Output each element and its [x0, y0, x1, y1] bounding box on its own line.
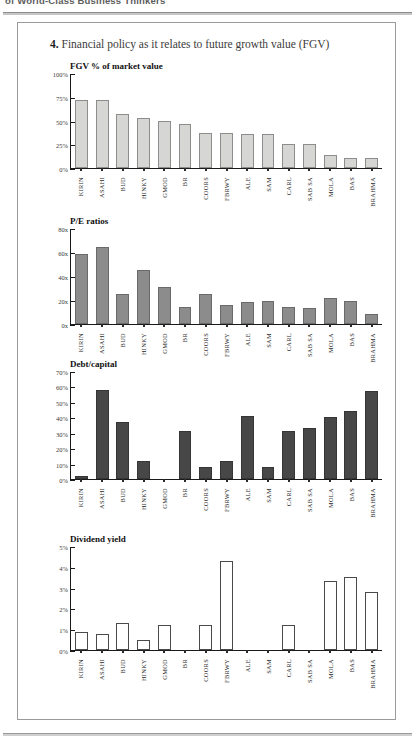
bar[interactable]: [220, 461, 233, 480]
x-axis-label: SAB SA: [306, 177, 313, 201]
bar[interactable]: [137, 640, 150, 650]
bar[interactable]: [199, 133, 212, 168]
bar[interactable]: [179, 124, 192, 168]
bar[interactable]: [365, 158, 378, 168]
bar-slot: [237, 547, 258, 650]
bar[interactable]: [116, 623, 129, 650]
bar[interactable]: [137, 461, 150, 480]
bar[interactable]: [220, 561, 233, 650]
bar[interactable]: [344, 577, 357, 650]
y-tick-label: 50%: [56, 118, 68, 125]
x-tick-mark: [143, 324, 145, 327]
x-axis-label: COORS: [202, 488, 209, 511]
x-tick-mark: [80, 650, 82, 653]
bar[interactable]: [179, 307, 192, 324]
bar[interactable]: [262, 467, 275, 479]
bar[interactable]: [137, 270, 150, 324]
bar[interactable]: [75, 254, 88, 324]
y-tick-mark: [70, 480, 75, 481]
x-tick-mark: [329, 168, 331, 171]
x-tick-mark: [308, 650, 310, 653]
bar[interactable]: [344, 158, 357, 168]
running-header-text: of World-Class Business Thinkers: [5, 0, 165, 6]
x-label-slot: BAS: [340, 331, 361, 377]
x-label-slot: BUD: [112, 331, 133, 377]
y-tick-label: 0%: [59, 166, 68, 173]
bar[interactable]: [75, 632, 88, 650]
x-axis-label: ASAHI: [98, 177, 105, 198]
bar-slot: [278, 229, 299, 324]
x-label-slot: MOLA: [320, 175, 341, 221]
y-tick-label: 70%: [56, 369, 68, 376]
bar[interactable]: [116, 114, 129, 168]
bar[interactable]: [179, 431, 192, 479]
bar-slot: [195, 372, 216, 479]
bar[interactable]: [365, 592, 378, 650]
x-label-slot: KIRIN: [70, 486, 91, 532]
bar[interactable]: [324, 581, 337, 650]
bar[interactable]: [324, 417, 337, 479]
bar[interactable]: [220, 133, 233, 168]
bar[interactable]: [158, 625, 171, 650]
bar[interactable]: [199, 294, 212, 324]
bar[interactable]: [262, 301, 275, 324]
bar[interactable]: [344, 301, 357, 324]
x-label-slot: GMOD: [153, 657, 174, 703]
bar[interactable]: [241, 416, 254, 479]
bar-slot: [92, 547, 113, 650]
y-axis-ticks-debt-capital: 0%10%20%30%40%50%60%70%: [40, 372, 70, 480]
bar[interactable]: [158, 121, 171, 168]
bar[interactable]: [282, 307, 295, 324]
bar-slot: [278, 372, 299, 479]
bar[interactable]: [96, 390, 109, 479]
x-label-slot: BR: [174, 486, 195, 532]
bar[interactable]: [96, 634, 109, 650]
bar[interactable]: [365, 314, 378, 324]
x-axis-label: FBRWY: [222, 488, 229, 512]
bar[interactable]: [241, 134, 254, 168]
bar-slot: [341, 74, 362, 168]
x-label-slot: KIRIN: [70, 331, 91, 377]
bar[interactable]: [303, 308, 316, 324]
figure-title-text: Financial policy as it relates to future…: [62, 38, 330, 50]
bar[interactable]: [199, 625, 212, 650]
bar[interactable]: [199, 467, 212, 479]
bar-slot: [154, 372, 175, 479]
bar[interactable]: [96, 100, 109, 168]
x-axis-label: GMOD: [160, 177, 167, 198]
bar[interactable]: [75, 100, 88, 168]
x-tick-mark: [163, 650, 165, 653]
bar[interactable]: [303, 428, 316, 479]
bar[interactable]: [158, 287, 171, 324]
figure-title: 4. Financial policy as it relates to fut…: [50, 38, 329, 50]
x-axis-label: ASAHI: [98, 659, 105, 680]
x-tick-mark: [329, 324, 331, 327]
x-label-slot: BUD: [112, 486, 133, 532]
bar[interactable]: [116, 294, 129, 324]
bar[interactable]: [344, 411, 357, 479]
bar[interactable]: [324, 155, 337, 168]
bar[interactable]: [365, 391, 378, 479]
x-axis-label: KIRIN: [77, 488, 84, 507]
bar[interactable]: [324, 298, 337, 324]
x-label-slot: SAM: [257, 657, 278, 703]
x-tick-mark: [246, 650, 248, 653]
bar[interactable]: [220, 305, 233, 324]
x-tick-mark: [226, 650, 228, 653]
x-tick-mark: [288, 168, 290, 171]
bar-series-dividend-yield: [71, 547, 382, 650]
bar[interactable]: [116, 422, 129, 479]
bar[interactable]: [282, 625, 295, 650]
bar[interactable]: [241, 302, 254, 324]
x-axis-label: CARL: [285, 488, 292, 506]
bar[interactable]: [282, 144, 295, 168]
bar[interactable]: [96, 247, 109, 324]
bar[interactable]: [303, 144, 316, 168]
x-label-slot: MOLA: [320, 486, 341, 532]
x-label-slot: GMOD: [153, 486, 174, 532]
x-label-slot: ALE: [236, 175, 257, 221]
bar[interactable]: [262, 134, 275, 168]
bar[interactable]: [282, 431, 295, 479]
bar-slot: [71, 229, 92, 324]
bar[interactable]: [137, 118, 150, 168]
